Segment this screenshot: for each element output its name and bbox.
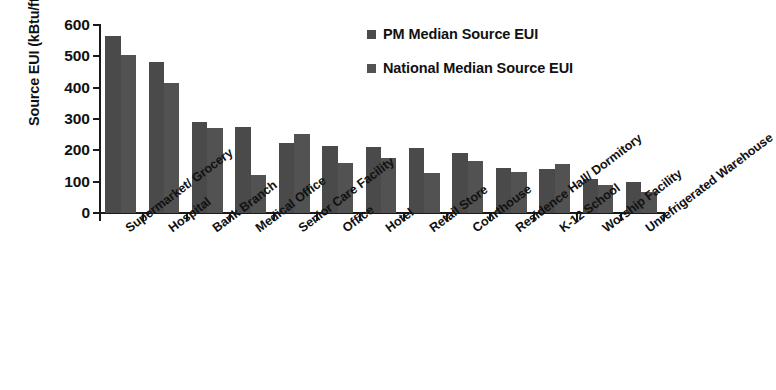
legend-item-national-median: National Median Source EUI (367, 60, 573, 76)
bar (105, 36, 120, 213)
bar (149, 62, 164, 213)
y-axis-tick-label: 300 (44, 110, 90, 128)
x-axis-tick-mark (99, 214, 101, 221)
legend-label: PM Median Source EUI (383, 26, 538, 42)
y-axis-title: Source EUI (kBtu/ft2) (24, 0, 42, 152)
legend-swatch-icon (367, 64, 376, 73)
y-axis-tick-label: 100 (44, 173, 90, 191)
bar-group (105, 25, 137, 213)
legend-swatch-icon (367, 30, 376, 39)
bar (121, 55, 136, 213)
y-axis-tick-label: 500 (44, 47, 90, 65)
bar (424, 173, 439, 213)
bar (409, 148, 424, 213)
y-axis-tick-label: 600 (44, 16, 90, 34)
legend-label: National Median Source EUI (383, 60, 573, 76)
chart-legend: PM Median Source EUI National Median Sou… (367, 26, 573, 94)
y-axis-title-text: Source EUI (kBtu/ft (26, 0, 42, 126)
legend-item-pm-median: PM Median Source EUI (367, 26, 573, 42)
y-axis-tick-label: 200 (44, 141, 90, 159)
y-axis-tick-label: 400 (44, 79, 90, 97)
y-axis-tick-label: 0 (44, 204, 90, 222)
